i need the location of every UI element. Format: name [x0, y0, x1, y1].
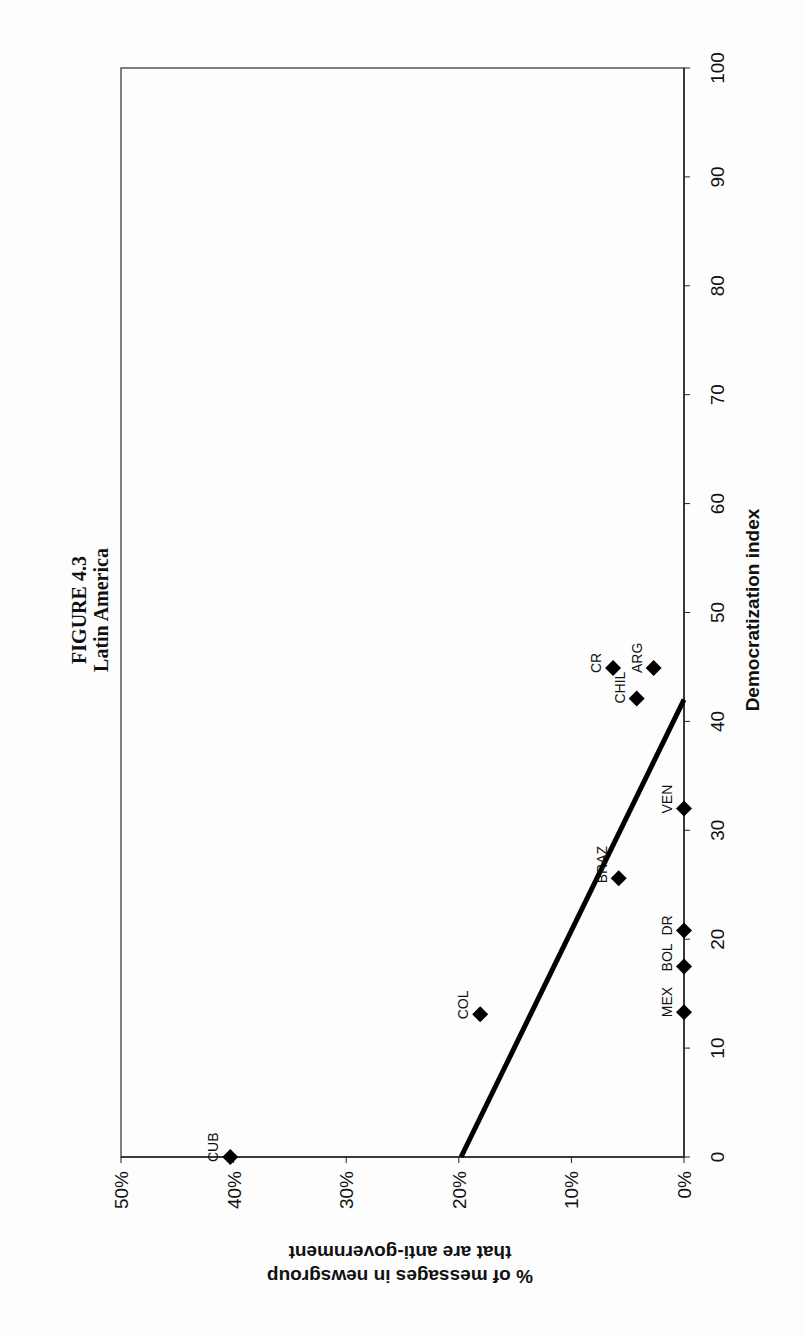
data-point: DR [659, 915, 692, 938]
point-label: CUB [205, 1132, 221, 1162]
x-tick-label: 10 [707, 1038, 728, 1059]
point-label: ARG [629, 643, 645, 673]
diamond-marker-icon [222, 1149, 238, 1165]
diamond-marker-icon [611, 870, 627, 886]
data-point: CR [588, 653, 621, 676]
x-tick-label: 40 [707, 711, 728, 732]
x-tick-label: 50 [707, 602, 728, 623]
point-label: COL [455, 990, 471, 1019]
x-tick-label: 30 [707, 820, 728, 841]
x-tick-label: 90 [707, 166, 728, 187]
data-point: CUB [205, 1132, 238, 1165]
trend-line [461, 700, 684, 1157]
point-label: BOL [659, 943, 675, 971]
x-tick-label: 100 [707, 52, 728, 84]
y-tick-label: 40% [224, 1171, 245, 1209]
y-axis-ticks: 0%10%20%30%40%50% [111, 1157, 695, 1209]
x-tick-label: 20 [707, 929, 728, 950]
point-label: CR [588, 653, 604, 673]
plot-area [121, 68, 684, 1157]
scatter-chart: 0102030405060708090100 0%10%20%30%40%50%… [0, 0, 804, 1338]
diamond-marker-icon [646, 660, 662, 676]
data-point: ARG [629, 643, 662, 676]
y-axis-title-line1: % of messages in newsgroup [267, 1266, 533, 1287]
y-tick-label: 0% [674, 1171, 695, 1199]
x-tick-label: 70 [707, 384, 728, 405]
point-label: BRAZ [594, 845, 610, 883]
x-axis-title: Democratization index [742, 508, 763, 711]
plot-frame [121, 68, 684, 1157]
y-axis-title-line2: that are anti-government [288, 1242, 511, 1263]
regression-line [461, 700, 684, 1157]
data-point: COL [455, 990, 488, 1022]
x-tick-label: 60 [707, 493, 728, 514]
diamond-marker-icon [629, 691, 645, 707]
point-label: CHIL [612, 671, 628, 703]
diamond-marker-icon [676, 958, 692, 974]
data-point: CHIL [612, 671, 645, 706]
chart-subtitle: Latin America [90, 548, 112, 672]
point-label: MEX [659, 986, 675, 1017]
y-tick-label: 30% [336, 1171, 357, 1209]
y-tick-label: 50% [111, 1171, 132, 1209]
point-label: VEN [659, 785, 675, 814]
data-point: VEN [659, 785, 692, 817]
diamond-marker-icon [472, 1006, 488, 1022]
x-tick-label: 80 [707, 275, 728, 296]
x-axis-ticks: 0102030405060708090100 [684, 52, 728, 1162]
diamond-marker-icon [676, 801, 692, 817]
x-tick-label: 0 [707, 1152, 728, 1163]
y-tick-label: 10% [561, 1171, 582, 1209]
point-label: DR [659, 915, 675, 935]
data-point: BOL [659, 943, 692, 974]
data-points: CUBMEXCOLBOLDRBRAZVENCHILCRARG [205, 643, 692, 1165]
diamond-marker-icon [676, 1004, 692, 1020]
chart-title: FIGURE 4.3 [68, 556, 90, 664]
y-tick-label: 20% [449, 1171, 470, 1209]
diamond-marker-icon [676, 922, 692, 938]
data-point: MEX [659, 986, 692, 1020]
